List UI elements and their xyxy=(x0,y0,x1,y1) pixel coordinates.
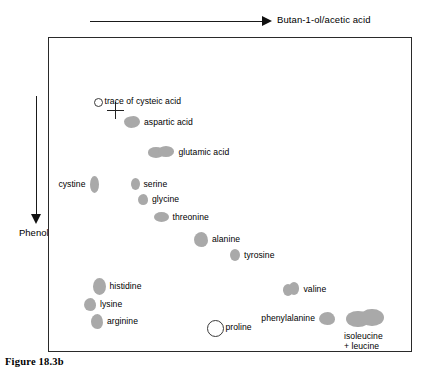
spot-glutamic-acid xyxy=(148,146,175,158)
spot-proline xyxy=(207,320,224,337)
horizontal-solvent-arrow-icon xyxy=(262,16,272,26)
spot-lobe xyxy=(158,146,175,157)
spot-label-alanine: alanine xyxy=(212,234,240,244)
spot-cystine xyxy=(90,176,99,193)
spot-label-lysine: lysine xyxy=(100,299,122,309)
spot-trace-of-cysteic-acid xyxy=(94,98,103,107)
vertical-solvent-arrow-icon xyxy=(31,214,41,224)
figure-caption: Figure 18.3b xyxy=(5,356,64,367)
spot-label-cystine: cystine xyxy=(58,179,85,189)
vertical-solvent-axis-line xyxy=(36,96,37,216)
spot-label-glutamic-acid: glutamic acid xyxy=(179,147,230,157)
spot-isoleucine-leucine xyxy=(346,309,384,328)
spot-phenylalanine xyxy=(319,312,335,325)
spot-label-trace-of-cysteic-acid: trace of cysteic acid xyxy=(105,96,182,106)
spot-histidine xyxy=(93,278,106,295)
spot-arginine xyxy=(91,314,103,329)
chromatogram-figure: Butan-1-ol/acetic acid Phenol trace of c… xyxy=(0,0,425,374)
spot-label-isoleucine-leucine: isoleucine+ leucine xyxy=(344,331,414,352)
spot-threonine xyxy=(154,212,169,222)
spot-label-tyrosine: tyrosine xyxy=(244,250,275,260)
spot-tyrosine xyxy=(230,249,240,261)
chromatography-plate: trace of cysteic acidaspartic acidglutam… xyxy=(48,37,412,352)
spot-label-glycine: glycine xyxy=(152,194,179,204)
spot-label-arginine: arginine xyxy=(107,316,138,326)
spot-glycine xyxy=(138,194,148,205)
spot-aspartic-acid xyxy=(124,116,140,128)
spot-label-serine: serine xyxy=(144,179,168,189)
spot-label-proline: proline xyxy=(226,322,252,332)
spot-alanine xyxy=(194,232,208,247)
spot-label-valine: valine xyxy=(304,284,327,294)
spot-label-threonine: threonine xyxy=(173,212,209,222)
spot-valine xyxy=(283,282,300,296)
spot-lobe xyxy=(289,282,300,295)
vertical-solvent-axis-label: Phenol xyxy=(19,227,49,238)
spot-serine xyxy=(131,178,140,190)
spot-lysine xyxy=(84,298,96,311)
spot-lobe xyxy=(360,309,384,326)
spot-label-phenylalanine: phenylalanine xyxy=(261,313,315,323)
horizontal-solvent-axis-line xyxy=(90,21,262,22)
spot-label-aspartic-acid: aspartic acid xyxy=(144,117,193,127)
spot-label-histidine: histidine xyxy=(110,281,142,291)
horizontal-solvent-axis-label: Butan-1-ol/acetic acid xyxy=(277,14,371,25)
